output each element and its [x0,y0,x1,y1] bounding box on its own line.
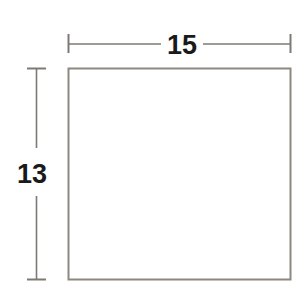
rectangle-shape [69,69,291,280]
geometry-diagram: 15 13 [0,0,303,287]
height-dimension-group: 13 [17,69,47,280]
height-dimension-label: 13 [17,159,47,189]
width-dimension-label: 15 [167,30,197,60]
width-dimension-group: 15 [69,30,291,60]
diagram-canvas: 15 13 [0,0,303,287]
